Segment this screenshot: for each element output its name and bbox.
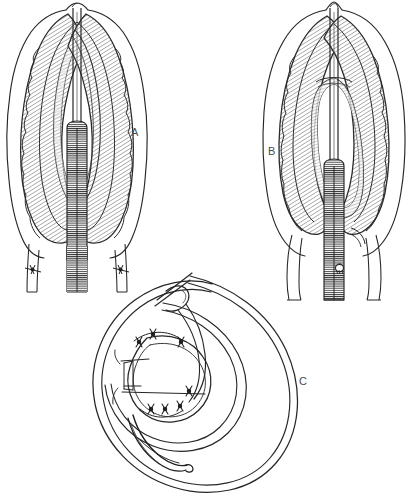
nematode-anatomy-drawing	[0, 0, 406, 494]
panel-label-c: C	[299, 376, 307, 387]
illustration-plate: A B C	[0, 0, 406, 494]
panel-label-a: A	[131, 127, 139, 138]
panel-label-b: B	[268, 146, 276, 157]
